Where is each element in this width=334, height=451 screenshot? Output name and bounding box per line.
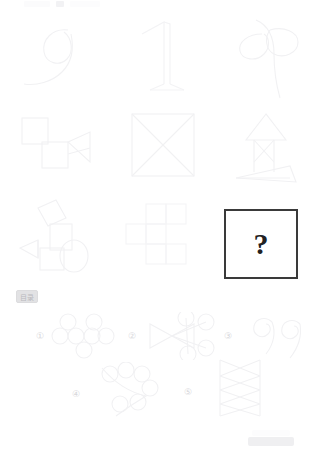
question-mark-label: ? — [226, 229, 296, 259]
matrix-cell-r1c3 — [220, 14, 320, 100]
matrix-cell-r1c2 — [116, 14, 216, 100]
squares-with-triangle-shape-icon — [12, 106, 112, 192]
bottom-control-button[interactable] — [248, 437, 294, 446]
option-4-number: ④ — [72, 390, 80, 399]
option-4[interactable]: ④ — [72, 362, 168, 418]
sprout-two-leaves-shape-icon — [220, 14, 320, 100]
circle-cluster-shape-icon — [50, 312, 122, 360]
tower-triangle-roof-shape-icon — [220, 106, 320, 192]
matrix-cell-r2c2 — [116, 106, 216, 192]
curl-nine-shape-icon — [12, 14, 112, 100]
top-strip-chip-right — [70, 1, 100, 7]
matrix-cell-r3c2 — [116, 196, 216, 282]
option-2-number: ② — [128, 332, 136, 341]
option-5-number: ⑤ — [184, 388, 192, 397]
top-strip — [0, 0, 334, 10]
top-strip-chip-left — [24, 1, 50, 7]
top-strip-chip-mid — [56, 1, 64, 7]
answer-question-box[interactable]: ? — [224, 209, 298, 279]
matrix-cell-r1c1 — [12, 14, 112, 100]
answer-options: ① ② — [0, 300, 334, 425]
bottom-control-ghost — [252, 430, 290, 436]
lattice-truss-shape-icon — [210, 358, 272, 418]
circles-along-curve-shape-icon — [88, 362, 168, 418]
option-5[interactable]: ⑤ — [184, 358, 276, 418]
matrix-cell-r2c3 — [220, 106, 320, 192]
question-matrix: ? — [12, 14, 322, 276]
shapes-cluster-ellipse-shape-icon — [12, 196, 112, 282]
square-with-diagonals-shape-icon — [116, 106, 216, 192]
option-1[interactable]: ① — [36, 312, 122, 360]
option-1-number: ① — [36, 332, 44, 341]
matrix-cell-r2c1 — [12, 106, 112, 192]
option-3-number: ③ — [224, 332, 232, 341]
option-3[interactable]: ③ — [224, 308, 316, 360]
option-2[interactable]: ② — [128, 312, 214, 360]
quiz-page: ? 目录 ① ② — [0, 0, 334, 451]
cube-net-squares-shape-icon — [116, 196, 216, 282]
bowtie-triangles-circles-shape-icon — [142, 312, 216, 360]
matrix-cell-r3c1 — [12, 196, 112, 282]
numeral-one-shape-icon — [116, 14, 216, 100]
double-spiral-curl-shape-icon — [242, 308, 316, 360]
